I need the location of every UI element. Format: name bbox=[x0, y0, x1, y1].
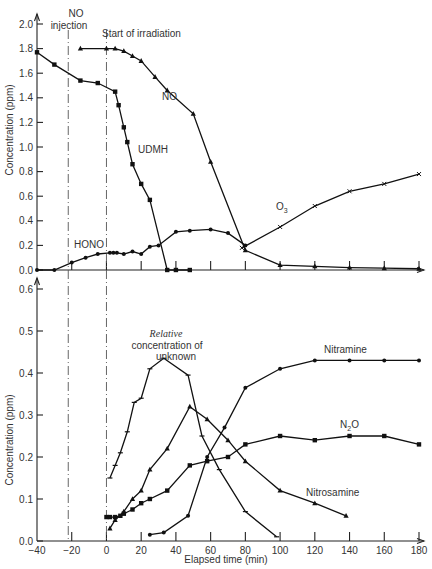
series-label-o3: O3 bbox=[276, 201, 288, 214]
y-tick-label: 0.2 bbox=[19, 240, 33, 251]
series-label-n2o: N2O bbox=[340, 419, 359, 432]
axes: 0.00.20.40.60.81.01.21.41.61.82.00.00.10… bbox=[19, 14, 428, 556]
y-tick-label: 2.0 bbox=[19, 19, 33, 30]
x-tick-label: 40 bbox=[170, 545, 182, 556]
line-chart: 0.00.20.40.60.81.01.21.41.61.82.00.00.10… bbox=[0, 0, 432, 569]
series-label-udmh: UDMH bbox=[138, 144, 168, 155]
series-group bbox=[35, 46, 422, 537]
chart-container: 0.00.20.40.60.81.01.21.41.61.82.00.00.10… bbox=[0, 0, 432, 569]
series-udmh bbox=[37, 52, 190, 270]
y-tick-label: 0.2 bbox=[19, 452, 33, 463]
x-tick-label: 140 bbox=[341, 545, 358, 556]
annotation-start-irradiation: Start of irradiation bbox=[102, 28, 181, 39]
x-tick-label: 0 bbox=[104, 545, 110, 556]
annotation-unknown: unknown bbox=[156, 351, 196, 362]
y-tick-label: 1.2 bbox=[19, 117, 33, 128]
series-label-nitrosamine: Nitrosamine bbox=[306, 487, 360, 498]
y-axis-label-top: Concentration (ppm) bbox=[4, 84, 15, 175]
x-tick-label: 120 bbox=[306, 545, 323, 556]
y-tick-label: 1.4 bbox=[19, 92, 33, 103]
y-tick-label: 0.8 bbox=[19, 166, 33, 177]
labels-group: NO injection Start of irradiation NO UDM… bbox=[4, 8, 367, 565]
x-tick-label: 180 bbox=[411, 545, 428, 556]
x-axis-label: Elapsed time (min) bbox=[184, 554, 267, 565]
series-relative-concentration-of-unknown bbox=[110, 358, 277, 537]
y-tick-label: 0.6 bbox=[19, 284, 33, 295]
x-tick-label: 160 bbox=[376, 545, 393, 556]
y-tick-label: 0.6 bbox=[19, 191, 33, 202]
series-label-hono: HONO bbox=[74, 239, 104, 250]
series-o3 bbox=[242, 174, 419, 248]
y-tick-label: 1.8 bbox=[19, 43, 33, 54]
y-tick-label: 1.0 bbox=[19, 142, 33, 153]
y-tick-label: 0.4 bbox=[19, 368, 33, 379]
x-tick-label: 100 bbox=[272, 545, 289, 556]
x-tick-label: 20 bbox=[136, 545, 148, 556]
y-tick-label: 0.5 bbox=[19, 326, 33, 337]
annotation-relative: Relative bbox=[149, 328, 183, 339]
y-tick-label: 0.3 bbox=[19, 410, 33, 421]
annotation-concentration-of: concentration of bbox=[131, 340, 202, 351]
x-tick-label: −20 bbox=[63, 545, 80, 556]
series-label-no: NO bbox=[162, 91, 177, 102]
y-axis-label-bottom: Concentration (ppm) bbox=[4, 394, 15, 485]
y-tick-label: 0.0 bbox=[19, 265, 33, 276]
x-tick-label: −40 bbox=[29, 545, 46, 556]
annotation-no-injection: NO bbox=[69, 8, 84, 19]
y-tick-label: 0.4 bbox=[19, 215, 33, 226]
series-nitrosamine bbox=[110, 407, 346, 529]
series-label-nitramine: Nitramine bbox=[324, 344, 367, 355]
y-tick-label: 1.6 bbox=[19, 68, 33, 79]
annotation-no-injection-2: injection bbox=[51, 20, 88, 31]
y-tick-label: 0.1 bbox=[19, 494, 33, 505]
